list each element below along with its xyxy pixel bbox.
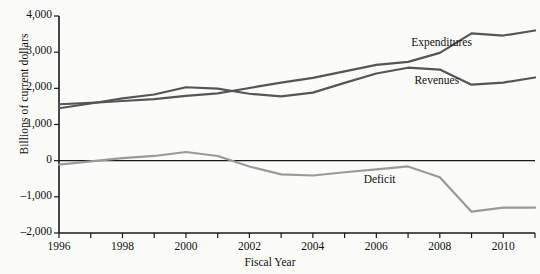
- y-tick-label: 1,000: [6, 117, 52, 129]
- x-tick-label: 2008: [418, 240, 462, 252]
- x-tick-label: 2002: [227, 240, 271, 252]
- y-tick-label: –2,000: [6, 225, 52, 237]
- y-tick-label: 0: [6, 153, 52, 165]
- x-tick-label: 2006: [354, 240, 398, 252]
- series-label-expenditures: Expenditures: [411, 36, 472, 48]
- series-label-deficit: Deficit: [364, 173, 396, 185]
- y-tick-label: –1,000: [6, 189, 52, 201]
- y-tick-label: 3,000: [6, 44, 52, 56]
- chart-container: Billions of current dollars Fiscal Year …: [0, 0, 540, 274]
- x-tick-label: 2010: [481, 240, 525, 252]
- y-tick-label: 2,000: [6, 80, 52, 92]
- y-tick-label: 4,000: [6, 8, 52, 20]
- series-line-revenues: [59, 68, 535, 109]
- x-tick-label: 2004: [291, 240, 335, 252]
- x-tick-label: 2000: [164, 240, 208, 252]
- series-label-revenues: Revenues: [414, 74, 459, 86]
- x-tick-label: 1996: [37, 240, 81, 252]
- x-tick-label: 1998: [100, 240, 144, 252]
